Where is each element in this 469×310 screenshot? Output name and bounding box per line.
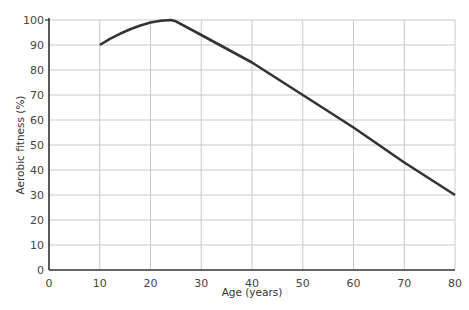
y-tick-label: 50: [30, 139, 44, 152]
y-tick-label: 70: [30, 89, 44, 102]
y-tick-label: 10: [30, 239, 44, 252]
y-tick-label: 80: [30, 64, 44, 77]
y-tick-label: 90: [30, 39, 44, 52]
aerobic-fitness-line: [100, 20, 455, 195]
x-tick-label: 20: [144, 277, 158, 290]
x-tick-label: 30: [194, 277, 208, 290]
x-tick-label: 80: [448, 277, 462, 290]
y-tick-label: 100: [23, 14, 44, 27]
axes: [45, 18, 455, 270]
x-axis-label: Age (years): [222, 286, 283, 298]
x-tick-label: 50: [296, 277, 310, 290]
y-tick-label: 30: [30, 189, 44, 202]
x-tick-label: 70: [397, 277, 411, 290]
x-tick-label: 60: [347, 277, 361, 290]
y-tick-labels: 0102030405060708090100: [23, 14, 44, 277]
y-tick-label: 60: [30, 114, 44, 127]
x-tick-label: 0: [46, 277, 53, 290]
gridlines: [49, 20, 455, 270]
y-axis-label: Aerobic fitness (%): [14, 96, 26, 195]
y-tick-label: 40: [30, 164, 44, 177]
y-tick-label: 20: [30, 214, 44, 227]
x-tick-label: 10: [93, 277, 107, 290]
line-chart: 01020304050607080 0102030405060708090100…: [0, 0, 469, 310]
y-tick-label: 0: [37, 264, 44, 277]
